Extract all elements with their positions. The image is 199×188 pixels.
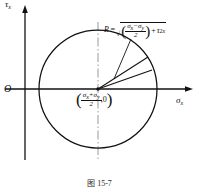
y-axis-label: τx <box>5 0 11 10</box>
radius-line-lower <box>98 70 152 89</box>
center-numerator: σx+σy <box>82 92 101 100</box>
term1-fraction: σx−σy 2 <box>126 23 145 39</box>
x-axis-arrowhead <box>185 86 193 92</box>
radical-group: √ ( σx−σy 2 ) + τ2x <box>116 22 166 39</box>
radical-contents: ( σx−σy 2 ) + τ2x <box>120 22 166 39</box>
figure-caption: 图 15-7 <box>0 177 199 188</box>
origin-label: O <box>4 84 11 94</box>
term1-numerator: σx−σy <box>126 23 145 31</box>
y-axis-label-subscript: x <box>8 4 11 10</box>
radius-formula-equals: = <box>110 26 115 34</box>
y-axis-arrowhead <box>22 5 28 13</box>
center-fraction: σx+σy 2 <box>82 92 101 108</box>
x-axis-label-subscript: x <box>180 100 183 106</box>
radius-formula: R= √ ( σx−σy 2 ) + τ2x <box>104 22 166 39</box>
term1-denominator: 2 <box>125 31 146 39</box>
term2-subscript: x <box>163 28 166 34</box>
circle-center-label: ( σx+σy 2 ,0 ) <box>76 92 112 108</box>
x-axis-label: σx <box>176 96 183 106</box>
center-close-paren: ) <box>107 94 113 106</box>
center-denominator: 2 <box>81 100 102 108</box>
radius-line-upper <box>98 57 148 89</box>
radius-formula-lhs: R <box>104 26 109 34</box>
